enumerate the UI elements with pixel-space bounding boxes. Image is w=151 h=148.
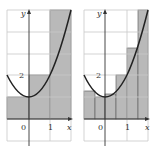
left-y-label: y bbox=[20, 9, 26, 18]
right-rect-2 bbox=[95, 97, 105, 119]
left-x-tick-1: 1 bbox=[48, 123, 53, 132]
right-origin-label: 0 bbox=[98, 123, 103, 132]
left-panel: y 2 0 1 x bbox=[7, 9, 73, 146]
right-y-tick-2: 2 bbox=[96, 71, 101, 80]
right-rect-5 bbox=[127, 48, 138, 119]
right-panel: y 2 0 1 x bbox=[84, 9, 150, 146]
right-rect-1 bbox=[84, 91, 95, 119]
left-rect-3 bbox=[50, 10, 71, 119]
left-y-tick-2: 2 bbox=[19, 71, 24, 80]
riemann-sum-figure: y 2 0 1 x y 2 bbox=[0, 0, 151, 148]
left-rect-1 bbox=[7, 97, 29, 119]
left-origin-label: 0 bbox=[21, 123, 26, 132]
right-x-label: x bbox=[145, 123, 150, 132]
right-x-tick-1: 1 bbox=[125, 123, 130, 132]
right-y-label: y bbox=[96, 9, 102, 18]
left-x-label: x bbox=[67, 123, 72, 132]
right-rect-3 bbox=[105, 94, 116, 119]
